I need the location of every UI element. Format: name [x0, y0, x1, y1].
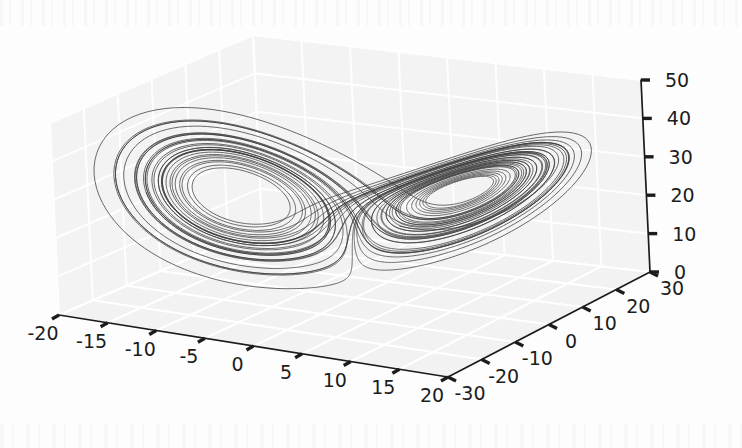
svg-text:20: 20: [420, 384, 444, 406]
svg-text:30: 30: [669, 146, 693, 168]
svg-text:-10: -10: [125, 338, 156, 360]
svg-text:-30: -30: [454, 382, 485, 404]
svg-text:15: 15: [371, 376, 395, 398]
svg-text:5: 5: [280, 361, 292, 383]
svg-text:20: 20: [626, 295, 650, 317]
axes-panes: [50, 35, 650, 377]
svg-text:50: 50: [665, 69, 689, 91]
svg-text:0: 0: [565, 330, 577, 352]
plot-canvas: -20-15-10-505101520-30-20-10010203001020…: [0, 0, 742, 448]
lorenz-attractor-figure: -20-15-10-505101520-30-20-10010203001020…: [0, 0, 742, 448]
svg-text:10: 10: [323, 369, 347, 391]
svg-text:10: 10: [593, 312, 617, 334]
svg-text:40: 40: [667, 107, 691, 129]
svg-text:20: 20: [670, 184, 694, 206]
svg-text:-5: -5: [179, 345, 198, 367]
svg-text:-20: -20: [488, 365, 519, 387]
svg-text:-10: -10: [522, 347, 553, 369]
svg-text:10: 10: [672, 223, 696, 245]
svg-text:-20: -20: [27, 322, 58, 344]
svg-text:0: 0: [674, 261, 686, 283]
svg-text:0: 0: [231, 353, 243, 375]
svg-text:-15: -15: [76, 330, 107, 352]
